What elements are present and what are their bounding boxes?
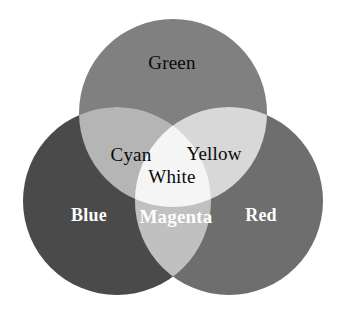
venn-diagram-canvas [0, 0, 346, 315]
label-red: Red [245, 206, 277, 224]
label-white: White [148, 167, 195, 186]
label-blue: Blue [71, 206, 107, 224]
label-magenta: Magenta [139, 207, 212, 226]
venn-diagram-figure: Green Cyan Yellow White Blue Magenta Red [0, 0, 346, 315]
label-yellow: Yellow [186, 144, 241, 163]
label-green: Green [148, 53, 195, 72]
label-cyan: Cyan [111, 145, 152, 164]
